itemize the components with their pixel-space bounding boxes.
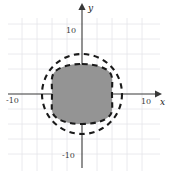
- coordinate-plane-graphic: [0, 0, 169, 175]
- shaded-intersection-region: [52, 64, 113, 124]
- squircle-fill: [52, 64, 113, 124]
- x-axis-tick-label-positive-ten: 10: [141, 98, 151, 106]
- math-figure: y x 10 -10 -10 10: [0, 0, 169, 175]
- y-axis-tick-label-positive-ten: 10: [66, 27, 76, 35]
- x-axis-label: x: [160, 98, 165, 107]
- y-axis-tick-label-negative-ten: -10: [62, 152, 75, 160]
- y-axis-label: y: [88, 4, 93, 13]
- x-axis-tick-label-negative-ten: -10: [6, 97, 19, 105]
- y-axis-arrow-icon: [78, 3, 85, 10]
